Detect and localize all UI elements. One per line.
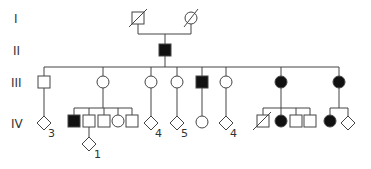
- individual-I-1: [129, 9, 147, 27]
- individual-IV-5: [112, 115, 124, 127]
- count-label: 1: [94, 148, 101, 161]
- individual-IV-12: [275, 115, 287, 127]
- individual-III-2: [97, 76, 109, 88]
- count-label: 3: [48, 127, 55, 140]
- individual-III-7: [275, 76, 287, 88]
- individual-III-1: [38, 76, 50, 88]
- count-label: 4: [155, 127, 162, 140]
- generation-label-IV: IV: [11, 117, 24, 131]
- count-label: 4: [230, 127, 237, 140]
- pedigree-chart: I II III IV: [0, 0, 371, 169]
- individual-III-4: [171, 76, 183, 88]
- individual-IV-6: [126, 115, 138, 127]
- individual-IV-13: [290, 115, 302, 127]
- individual-IV-2: [68, 115, 80, 127]
- generation-label-II: II: [13, 44, 20, 58]
- male-symbol: [257, 115, 269, 127]
- individual-III-8: [333, 76, 345, 88]
- individual-IV-3: [83, 115, 95, 127]
- individual-I-2: [184, 9, 198, 27]
- individual-IV-14: [304, 115, 316, 127]
- individual-III-6: [220, 76, 232, 88]
- individual-IV-11: [253, 112, 271, 130]
- individual-III-5: [196, 76, 208, 88]
- individual-IV-15: [324, 115, 336, 127]
- individual-IV-9: [196, 116, 208, 128]
- individual-IV-16-diamond: [341, 116, 355, 130]
- count-label: 5: [181, 127, 188, 140]
- individual-III-3: [145, 76, 157, 88]
- generation-label-I: I: [14, 12, 18, 26]
- individual-II-1: [159, 44, 171, 56]
- individual-IV-4: [98, 115, 110, 127]
- generation-label-III: III: [11, 76, 22, 90]
